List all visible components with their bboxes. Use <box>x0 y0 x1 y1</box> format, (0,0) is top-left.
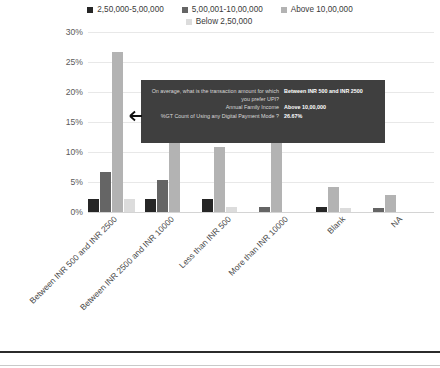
x-axis: Between INR 500 and INR 2500Between INR … <box>0 212 440 317</box>
tooltip-row-0: On average, what is the transaction amou… <box>148 88 376 103</box>
bar-group <box>88 32 145 212</box>
bar[interactable] <box>328 187 339 212</box>
data-tooltip: On average, what is the transaction amou… <box>141 80 385 143</box>
leftward-arrow-icon <box>125 110 143 122</box>
bar[interactable] <box>385 195 396 212</box>
legend-item-2[interactable]: Above 10,00,000 <box>281 4 353 16</box>
bar[interactable] <box>202 199 213 212</box>
bar[interactable] <box>112 52 123 212</box>
legend-swatch-icon-0 <box>87 7 93 13</box>
legend-item-3[interactable]: Below 2,50,000 <box>186 16 252 28</box>
y-axis-tick-label: 10% <box>66 147 83 157</box>
bar[interactable] <box>88 199 99 212</box>
legend-swatch-icon-1 <box>182 7 188 13</box>
bar[interactable] <box>145 199 156 212</box>
tooltip-row-2: %GT Count of Using any Digital Payment M… <box>148 113 376 121</box>
legend-label-2: Above 10,00,000 <box>291 4 353 16</box>
tooltip-label-2: %GT Count of Using any Digital Payment M… <box>148 113 279 121</box>
bar[interactable] <box>214 147 225 212</box>
tooltip-label-0: On average, what is the transaction amou… <box>148 88 279 103</box>
y-axis-tick-label: 20% <box>66 87 83 97</box>
bar[interactable] <box>271 140 282 212</box>
tooltip-value-2: 26.67% <box>284 113 376 121</box>
legend-item-0[interactable]: 2,50,000-5,00,000 <box>87 4 163 16</box>
y-axis-tick-label: 30% <box>66 27 83 37</box>
y-axis-tick-label: 5% <box>71 177 83 187</box>
legend-label-1: 5,00,001-10,00,000 <box>192 4 263 16</box>
bottom-divider-dark <box>0 351 440 353</box>
legend-swatch-icon-2 <box>281 7 287 13</box>
bar[interactable] <box>124 199 135 212</box>
y-axis: 30%25%20%15%10%5%0% <box>56 32 86 212</box>
bottom-divider-light <box>0 365 440 366</box>
tooltip-value-0: Between INR 500 and INR 2500 <box>284 88 376 96</box>
chart-plot-area: 30%25%20%15%10%5%0% On average, what is … <box>0 32 440 222</box>
y-axis-tick-label: 25% <box>66 57 83 67</box>
y-axis-tick-label: 15% <box>66 117 83 127</box>
legend-swatch-icon-3 <box>186 19 192 25</box>
chart-legend: 2,50,000-5,00,000 5,00,001-10,00,000 Abo… <box>0 4 440 28</box>
tooltip-label-1: Annual Family Income <box>148 104 279 112</box>
legend-item-1[interactable]: 5,00,001-10,00,000 <box>182 4 263 16</box>
bar[interactable] <box>100 172 111 212</box>
bar[interactable] <box>157 180 168 212</box>
tooltip-value-1: Above 10,00,000 <box>284 104 376 112</box>
tooltip-row-1: Annual Family Income Above 10,00,000 <box>148 104 376 112</box>
legend-label-3: Below 2,50,000 <box>196 16 252 28</box>
legend-label-0: 2,50,000-5,00,000 <box>97 4 163 16</box>
